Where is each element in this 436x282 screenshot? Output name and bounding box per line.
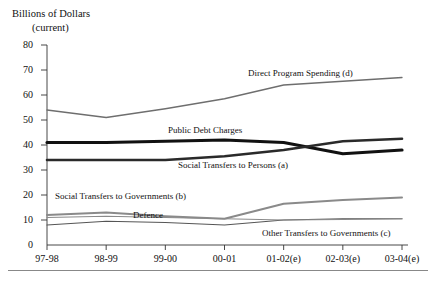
series-label-5: Other Transfers to Governments (c) [262, 228, 390, 238]
y-axis-title-line-1: Billions of Dollars [12, 7, 90, 20]
y-tick-label: 40 [11, 139, 33, 150]
series-label-2: Social Transfers to Persons (a) [178, 160, 288, 170]
series-label-3: Social Transfers to Governments (b) [55, 191, 186, 201]
y-tick-label: 10 [11, 214, 33, 225]
x-tick-label: 01-02(e) [254, 253, 314, 264]
series-label-1: Public Debt Charges [168, 125, 242, 135]
y-tick-label: 60 [11, 89, 33, 100]
y-axis-title-line-2: (current) [32, 21, 69, 34]
series-line-0 [47, 78, 402, 118]
y-tick-label: 80 [11, 39, 33, 50]
series-label-0: Direct Program Spending (d) [248, 68, 353, 78]
plot-area [0, 0, 436, 282]
y-tick-label: 20 [11, 189, 33, 200]
x-tick-label: 02-03(e) [313, 253, 373, 264]
y-tick-label: 0 [11, 239, 33, 250]
bottom-divider [8, 270, 428, 271]
y-tick-label: 30 [11, 164, 33, 175]
x-tick-label: 03-04(e) [372, 253, 432, 264]
series-lines [47, 78, 402, 226]
series-label-4: Defence [133, 210, 163, 220]
x-tick-label: 99-00 [135, 253, 195, 264]
y-tick-label: 50 [11, 114, 33, 125]
x-tick-label: 98-99 [76, 253, 136, 264]
x-tick-label: 97-98 [17, 253, 77, 264]
x-tick-label: 00-01 [195, 253, 255, 264]
y-tick-label: 70 [11, 64, 33, 75]
chart-figure: Billions of Dollars (current) 0102030405… [0, 0, 436, 282]
